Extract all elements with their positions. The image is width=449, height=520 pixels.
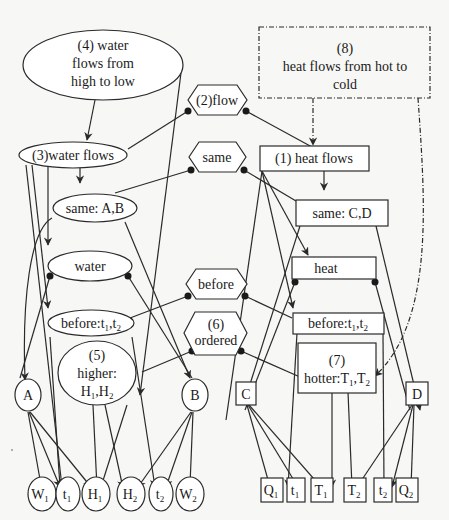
edge-beforeL-before xyxy=(130,296,188,318)
dot-same-right xyxy=(241,167,248,174)
node-n7: (7) hotter:T1,T2 xyxy=(298,343,376,393)
node-A: A xyxy=(15,379,41,411)
node-C: C xyxy=(236,382,256,405)
edge-C-Q1 xyxy=(247,405,270,487)
edge-D-t2 xyxy=(392,405,413,487)
node-n4: (4) water flows from high to low xyxy=(23,30,183,100)
edge-n7-T2 xyxy=(348,392,352,487)
edge-n5-H1 xyxy=(93,405,97,488)
edge-before-t2 xyxy=(132,337,155,487)
node-n5-line3: H1,H2 xyxy=(81,384,114,401)
node-n5: (5) higher: H1,H2 xyxy=(58,341,136,405)
node-n8: (8) heat flows from hot to cold xyxy=(259,27,430,98)
dot-flow-left xyxy=(185,108,192,115)
edge-n5-H2 xyxy=(105,405,123,488)
dot-same-left xyxy=(188,167,195,174)
node-C-label: C xyxy=(241,387,250,402)
hex-flow-label: (2)flow xyxy=(196,93,239,109)
edge-flow-n1 xyxy=(246,111,312,147)
leaf-W1: W1 xyxy=(28,477,56,511)
hex-flow: (2)flow xyxy=(188,85,247,115)
node-D: D xyxy=(406,382,428,405)
leaf-W2: W2 xyxy=(176,477,204,511)
leaf-T1: T1 xyxy=(311,478,333,502)
edge-ordered-n7 xyxy=(241,351,300,377)
node-n4-line1: (4) water xyxy=(78,38,129,54)
dot-flow-right xyxy=(243,108,250,115)
edge-B-H2 xyxy=(138,412,191,487)
hex-same: same xyxy=(189,142,246,172)
leaf-H2: H2 xyxy=(117,477,145,511)
edge-B-W2 xyxy=(190,412,193,485)
node-n4-line3: high to low xyxy=(71,74,136,89)
edge-C-T1 xyxy=(249,405,321,487)
leaf-Q1: Q1 xyxy=(261,478,283,502)
node-before-left-label: before:t1,t2 xyxy=(61,316,121,333)
node-n8-line1: (8) xyxy=(337,41,354,57)
node-water: water xyxy=(48,251,132,281)
dot-before-left xyxy=(185,293,192,300)
node-n8-line2: heat flows from hot to xyxy=(283,59,407,74)
edge-n1-beforeR xyxy=(262,171,293,308)
edge-before-t1 xyxy=(50,337,60,487)
leaf-t1-right: t1 xyxy=(287,478,305,502)
node-n8-line3: cold xyxy=(333,77,357,92)
leaf-T2: T2 xyxy=(344,478,366,502)
edge-sameab-same xyxy=(115,170,191,193)
hex-ordered-line1: (6) xyxy=(208,317,225,333)
leaf-Q2: Q2 xyxy=(396,478,418,502)
edge-n4-n5 xyxy=(140,65,182,395)
edge-water-B xyxy=(128,276,192,378)
edge-D-Q2 xyxy=(411,405,414,487)
hex-ordered-line2: ordered xyxy=(195,333,238,348)
node-before-right-label: before:t1,t2 xyxy=(308,316,368,333)
node-D-label: D xyxy=(412,387,422,402)
edge-n4-n3 xyxy=(87,100,95,140)
node-before-right: before:t1,t2 xyxy=(293,313,384,334)
node-same-cd: same: C,D xyxy=(296,200,388,226)
node-n4-line2: flows from xyxy=(72,56,134,71)
right-leaves: Q1 t1 T1 T2 t2 Q2 xyxy=(261,478,418,502)
node-n7-line2: hotter:T1,T2 xyxy=(304,371,370,388)
node-n3-label: (3)water flows xyxy=(32,148,114,164)
edge-n3-flow xyxy=(128,111,188,149)
hex-same-label: same xyxy=(203,150,232,165)
node-same-cd-label: same: C,D xyxy=(312,206,371,221)
node-same-ab-label: same: A,B xyxy=(66,201,124,216)
node-n1: (1) heat flows xyxy=(260,146,369,171)
node-n5-line2: higher: xyxy=(77,366,117,381)
node-before-left: before:t1,t2 xyxy=(48,310,134,336)
node-heat-label: heat xyxy=(314,261,337,276)
hex-before-label: before xyxy=(198,277,234,292)
left-leaves: W1 t1 H1 H2 t2 W2 xyxy=(28,477,204,511)
edge-B-t2 xyxy=(166,412,192,487)
leaf-t2-right: t2 xyxy=(374,478,392,502)
node-heat: heat xyxy=(292,257,376,279)
leaf-H1: H1 xyxy=(82,477,110,511)
dot-before-right xyxy=(242,293,249,300)
node-n1-label: (1) heat flows xyxy=(275,151,353,167)
edge-n5-ordered xyxy=(142,351,192,372)
leaf-t2: t2 xyxy=(149,477,173,511)
stray-dot xyxy=(11,449,13,451)
hex-before: before xyxy=(186,269,247,299)
node-A-label: A xyxy=(23,388,34,403)
leaf-t1: t1 xyxy=(56,477,80,511)
edge-beforeR-t1 xyxy=(288,333,297,487)
node-same-ab: same: A,B xyxy=(53,194,137,222)
node-B: B xyxy=(182,379,208,411)
diagram-canvas: (4) water flows from high to low (3)wate… xyxy=(0,0,449,520)
edge-n5-H1-path xyxy=(100,405,127,490)
node-water-label: water xyxy=(74,259,105,274)
node-n3: (3)water flows xyxy=(19,142,127,168)
node-B-label: B xyxy=(190,388,199,403)
dot-water-left xyxy=(47,273,54,280)
node-n5-line1: (5) xyxy=(89,348,106,364)
hex-ordered: (6) ordered xyxy=(184,312,247,355)
edge-beforeR-t2 xyxy=(383,333,384,487)
structure-mapping-diagram: (4) water flows from high to low (3)wate… xyxy=(0,0,449,520)
node-n7-line1: (7) xyxy=(329,353,346,369)
